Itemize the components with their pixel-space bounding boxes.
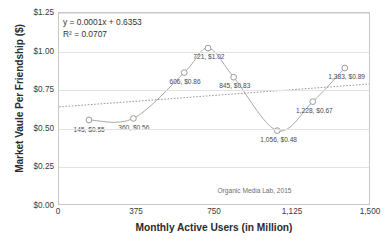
x-tick-label: 750 bbox=[207, 207, 221, 216]
gridline bbox=[59, 13, 369, 14]
x-tick-label: 375 bbox=[129, 207, 143, 216]
data-point-marker bbox=[310, 99, 316, 105]
y-tick-label: $0.75 bbox=[12, 85, 54, 94]
data-point-marker bbox=[86, 117, 92, 123]
data-point-marker bbox=[231, 74, 237, 80]
y-tick-label: $0.25 bbox=[12, 162, 54, 171]
y-axis-tick-labels: $0.00$0.25$0.50$0.75$1.00$1.25 bbox=[12, 12, 54, 205]
x-tick-label: 0 bbox=[56, 207, 61, 216]
data-point-marker bbox=[342, 65, 348, 71]
y-tick-label: $0.50 bbox=[12, 123, 54, 132]
data-point-marker bbox=[131, 116, 137, 122]
data-point-label: 1,056, $0.48 bbox=[260, 136, 297, 143]
chart-container: Market Vaule Per Friendship ($) $0.00$0.… bbox=[0, 0, 388, 250]
data-point-label: 845, $0.83 bbox=[219, 82, 250, 89]
data-point-label: 1,228, $0.67 bbox=[296, 107, 333, 114]
y-tick-label: $1.00 bbox=[12, 46, 54, 55]
data-point-label: 606, $0.86 bbox=[169, 78, 200, 85]
data-point-marker bbox=[181, 70, 187, 76]
x-tick-label: 1,125 bbox=[282, 207, 303, 216]
data-point-label: 360, $0.56 bbox=[118, 124, 149, 131]
data-point-marker bbox=[205, 45, 211, 51]
x-tick-label: 1,500 bbox=[360, 207, 381, 216]
gridline bbox=[59, 129, 369, 130]
credit-watermark: Organic Media Lab, 2015 bbox=[217, 187, 291, 194]
x-axis-tick-labels: 03757501,1251,500 bbox=[58, 207, 370, 221]
gridline bbox=[59, 167, 369, 168]
gridline bbox=[59, 90, 369, 91]
trendline bbox=[59, 84, 369, 107]
y-tick-label: $0.00 bbox=[12, 201, 54, 210]
y-tick-label: $1.25 bbox=[12, 8, 54, 17]
data-point-label: 721, $1.02 bbox=[193, 53, 224, 60]
gridline bbox=[59, 52, 369, 53]
plot-area: y = 0.0001x + 0.6353 R² = 0.0707 145, $0… bbox=[58, 12, 370, 205]
x-axis-title: Monthly Active Users (in Million) bbox=[58, 222, 370, 233]
data-point-label: 1,383, $0.89 bbox=[328, 73, 365, 80]
